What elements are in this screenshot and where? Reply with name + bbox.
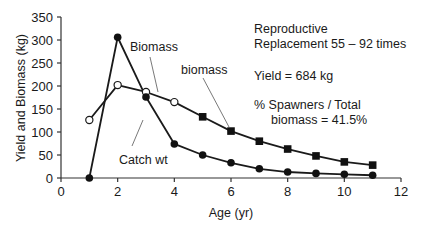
- annotation-replacement: Replacement 55 – 92 times: [254, 37, 406, 51]
- x-ticks: 024681012: [57, 178, 408, 199]
- label-catch-wt: Catch wt: [119, 153, 168, 167]
- y-tick-label: 100: [31, 125, 53, 140]
- x-tick-label: 12: [394, 184, 408, 199]
- spawner-biomass-square-marker: [199, 113, 207, 121]
- y-tick-label: 250: [31, 56, 53, 71]
- x-tick-label: 4: [171, 184, 178, 199]
- catch-filled-circle-marker: [199, 151, 207, 159]
- spawner-biomass-square-marker: [284, 145, 292, 153]
- spawner-biomass-square-marker: [227, 127, 235, 135]
- chart: 050100150200250300350 024681012 Yield an…: [0, 0, 421, 227]
- label-biomass-lower: biomass: [181, 63, 228, 77]
- catch-filled-circle-marker: [142, 93, 150, 101]
- y-axis-title: Yield and Biomass (kg): [14, 34, 28, 162]
- leader-biomass-upper: [150, 57, 158, 92]
- x-tick-label: 10: [337, 184, 351, 199]
- y-tick-label: 150: [31, 102, 53, 117]
- biomass-open-circle-marker: [114, 81, 121, 88]
- catch-filled-circle-marker: [114, 33, 122, 41]
- spawner-biomass-square-marker: [369, 161, 377, 169]
- annotation-spawners-line2: biomass = 41.5%: [271, 113, 367, 127]
- y-tick-label: 50: [39, 148, 53, 163]
- catch-filled-circle-marker: [86, 174, 94, 182]
- annotation-yield: Yield = 684 kg: [254, 69, 333, 83]
- leader-catch: [132, 120, 143, 146]
- y-tick-label: 300: [31, 33, 53, 48]
- annotation-reproductive: Reproductive: [254, 22, 328, 36]
- y-ticks: 050100150200250300350: [31, 10, 61, 186]
- catch-filled-circle-marker: [312, 170, 320, 178]
- x-tick-label: 2: [114, 184, 121, 199]
- catch-filled-circle-marker: [369, 171, 377, 179]
- catch-filled-circle-marker: [227, 159, 235, 167]
- x-tick-label: 6: [227, 184, 234, 199]
- x-axis-title: Age (yr): [209, 206, 253, 220]
- y-tick-label: 200: [31, 79, 53, 94]
- spawner-biomass-square-marker: [341, 158, 349, 166]
- x-tick-label: 0: [57, 184, 64, 199]
- annotation-spawners-line1: % Spawners / Total: [254, 98, 361, 112]
- catch-filled-circle-marker: [284, 168, 292, 176]
- biomass-open-circle-marker: [171, 99, 178, 106]
- biomass-open-circle-marker: [86, 116, 93, 123]
- label-biomass-upper: Biomass: [130, 40, 178, 54]
- catch-filled-circle-marker: [256, 165, 264, 173]
- catch-filled-circle-marker: [341, 171, 349, 179]
- y-tick-label: 350: [31, 10, 53, 25]
- spawner-biomass-square-marker: [256, 137, 264, 145]
- spawner-biomass-square-marker: [312, 152, 320, 160]
- catch-filled-circle-marker: [171, 140, 179, 148]
- y-tick-label: 0: [46, 171, 53, 186]
- x-tick-label: 8: [284, 184, 291, 199]
